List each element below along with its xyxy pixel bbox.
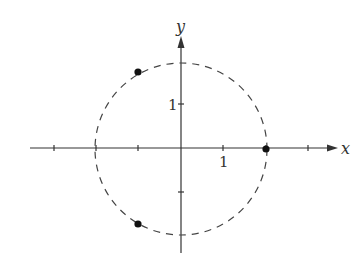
point-2-0	[262, 145, 269, 152]
x-axis-arrow-icon	[327, 145, 338, 152]
x-tick-label-1: 1	[219, 153, 229, 171]
y-axis-arrow-icon	[178, 36, 185, 48]
y-tick-label-1: 1	[168, 96, 178, 114]
point-lower-left	[134, 220, 141, 227]
y-axis-label: y	[175, 17, 186, 36]
diagram-canvas: x y 1 1	[0, 0, 351, 264]
point-upper-left	[134, 68, 141, 75]
x-axis-label: x	[341, 139, 350, 158]
